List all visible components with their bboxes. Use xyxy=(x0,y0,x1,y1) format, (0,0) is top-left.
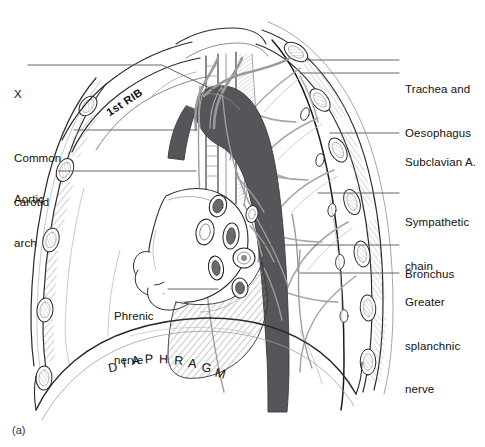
label-x: X xyxy=(14,58,22,116)
label-subclavian-artery: Subclavian A. xyxy=(405,126,476,184)
label-x-line1: X xyxy=(14,87,22,102)
label-subclavian-artery-line1: Subclavian A. xyxy=(405,155,476,170)
label-phrenic-nerve-line1: Phrenic xyxy=(114,309,154,324)
label-trachea-line1: Trachea and xyxy=(405,82,471,97)
label-aortic-arch-line1: Aortic xyxy=(14,192,44,207)
label-greater-splanchnic-line2: splanchnic xyxy=(405,339,460,354)
label-diaphragm: DIAPHRAGM xyxy=(108,352,233,366)
label-greater-splanchnic-line3: nerve xyxy=(405,382,460,397)
diaphragm-label-char: P xyxy=(145,352,159,367)
label-aortic-arch: Aortic arch xyxy=(14,163,44,265)
label-greater-splanchnic-nerve: Greater splanchnic nerve xyxy=(405,266,460,411)
diaphragm-label-char: H xyxy=(159,352,174,366)
label-greater-splanchnic-line1: Greater xyxy=(405,295,460,310)
label-sympathetic-chain-line1: Sympathetic xyxy=(405,215,469,230)
diaphragm-label-char: A xyxy=(130,353,145,368)
figure-caption: (a) xyxy=(12,424,25,436)
label-aortic-arch-line2: arch xyxy=(14,236,44,251)
